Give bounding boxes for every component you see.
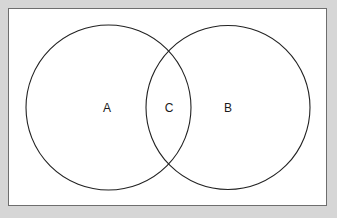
venn-canvas: A C B bbox=[0, 0, 337, 218]
region-label-c: C bbox=[165, 101, 174, 115]
venn-diagram-figure: A C B bbox=[0, 0, 337, 218]
region-label-a: A bbox=[103, 101, 111, 115]
region-label-b: B bbox=[224, 101, 232, 115]
